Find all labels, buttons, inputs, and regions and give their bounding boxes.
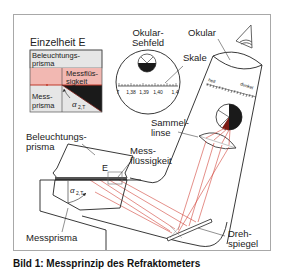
svg-text:1,4: 1,4 xyxy=(172,89,179,95)
detail-label-meas-prism: Mess- xyxy=(32,92,53,101)
svg-text:7: 7 xyxy=(117,89,120,95)
label-hell: hell xyxy=(208,77,216,84)
svg-text:2,T: 2,T xyxy=(78,104,85,110)
svg-text:2,T: 2,T xyxy=(76,190,83,196)
figure-caption: Bild 1: Messprinzip des Refraktometers xyxy=(13,258,200,269)
detail-angle-label: α xyxy=(72,100,77,109)
label-e: E xyxy=(102,163,108,173)
svg-text:Sehfeld: Sehfeld xyxy=(132,37,164,48)
label-dunkel: dunkel xyxy=(240,81,254,90)
svg-text:spiegel: spiegel xyxy=(228,238,258,249)
angle-label: α xyxy=(70,186,75,195)
svg-text:prisma: prisma xyxy=(32,101,55,110)
svg-text:1,39: 1,39 xyxy=(139,89,149,95)
eye-icon xyxy=(236,25,252,48)
detail-title: Einzelheit E xyxy=(30,36,85,48)
label-skale: Skale xyxy=(183,52,207,63)
tube-field-circle xyxy=(216,104,242,130)
detail-e-inset: Einzelheit E Beleuchtungs- prisma Messfl… xyxy=(30,36,102,112)
label-messprisma: Messprisma xyxy=(26,232,78,243)
svg-text:sigkeit: sigkeit xyxy=(66,77,88,86)
svg-text:1,38: 1,38 xyxy=(126,89,136,95)
svg-text:1,40: 1,40 xyxy=(153,89,163,95)
illumination-prism: Beleuchtungs- prisma xyxy=(26,131,133,178)
label-okular: Okular xyxy=(188,27,216,38)
eyepiece-field: Okular- Sehfeld 7 1,38 1,39 1,40 1,4 xyxy=(116,27,180,114)
svg-text:linse: linse xyxy=(151,127,171,138)
svg-text:flüssigkeit: flüssigkeit xyxy=(130,155,172,166)
svg-text:prisma: prisma xyxy=(32,59,55,68)
rotating-mirror xyxy=(167,219,225,241)
svg-text:prisma: prisma xyxy=(26,141,55,152)
